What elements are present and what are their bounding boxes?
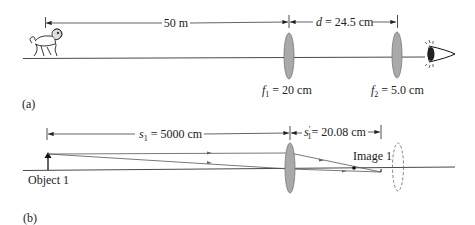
lens-1-focal-label: f1 = 20 cm xyxy=(262,83,312,99)
image-1-label: Image 1 xyxy=(353,149,392,163)
optical-axis-b xyxy=(23,167,455,171)
distance-label: 50 m xyxy=(164,16,189,30)
panel-b: s1 = 5000 cm s′1= 20.08 cm Object 1 xyxy=(23,125,455,225)
separation-label: d = 24.5 cm xyxy=(316,15,374,29)
lens-2-focal-label: f2 = 5.0 cm xyxy=(371,83,424,99)
panel-a-label: (a) xyxy=(22,97,35,111)
image-distance-label: s′1= 20.08 cm xyxy=(304,125,367,141)
optical-axis-a xyxy=(23,57,425,59)
object-1-label: Object 1 xyxy=(28,173,69,187)
lens-1 xyxy=(284,33,294,79)
focal-point xyxy=(352,166,356,170)
object-distance-label: s1 = 5000 cm xyxy=(139,127,203,143)
eye-icon xyxy=(425,40,455,68)
lens-2 xyxy=(392,32,402,78)
lion-icon xyxy=(30,29,62,56)
panel-b-label: (b) xyxy=(23,211,37,225)
lens-1-b xyxy=(285,143,295,193)
optics-diagram: 50 m d = 24.5 cm f1 = 20 cm f2 = 5.0 cm xyxy=(0,0,475,225)
panel-a: 50 m d = 24.5 cm f1 = 20 cm f2 = 5.0 cm xyxy=(22,15,455,111)
